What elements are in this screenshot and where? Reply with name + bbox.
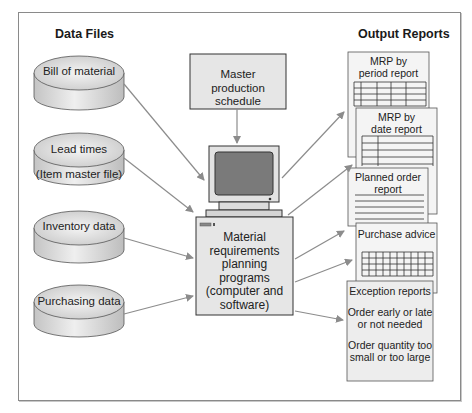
mrp-programs-label: Material requirements planning programs … [196,231,293,312]
report-period-label: MRP by period report [348,55,429,79]
report-period-line1: MRP by [348,55,429,67]
arrow-leadtimes-to-computer [124,158,193,212]
heading-output-reports: Output Reports [358,27,450,41]
report-exception-item2-line1: Order quantity too [347,339,433,351]
report-exception-item1-line2: or not needed [347,318,433,330]
master-schedule-line1: Master [190,68,286,82]
mrp-line6: software) [196,299,293,313]
arrow-purchasing-to-mrp [124,296,193,314]
report-planned-label: Planned order report [348,171,428,195]
disk-slot-icon [200,223,211,226]
disk-light-icon [213,223,215,226]
mrp-line1: Material [196,231,293,245]
report-purchase-label: Purchase advice [356,228,437,241]
arrow-mrp-to-planned [295,231,344,259]
mrp-line2: requirements [196,245,293,259]
arrow-inventory-to-mrp [124,238,193,258]
master-schedule-line2: production schedule [190,82,286,109]
heading-data-files: Data Files [55,27,114,41]
data-file-bom-label: Bill of material [34,65,124,78]
report-planned-line2: report [348,183,428,195]
arrow-computer-to-date [288,165,352,215]
data-file-purchasing-label: Purchasing data [34,295,124,308]
arrow-mrp-to-purchase [295,260,352,282]
mrp-line4: programs [196,272,293,286]
data-file-lead-times-label: Lead times [34,143,124,156]
arrow-computer-to-period [282,112,344,178]
mrp-line5: (computer and [196,285,293,299]
computer-icon [206,146,282,217]
data-file-inventory-label: Inventory data [34,220,124,233]
report-exception-item2-line2: small or too large [347,351,433,363]
report-planned-line1: Planned order [348,171,428,183]
report-date-label: MRP by date report [356,111,437,135]
report-period-line2: period report [348,67,429,79]
data-file-lead-times-sublabel: (Item master file) [34,168,124,181]
report-date-line1: MRP by [356,111,437,123]
master-schedule-label: Master production schedule [190,68,286,109]
report-exception-title: Exception reports [347,285,433,297]
report-exception-label: Exception reports Order early or late or… [347,285,433,363]
cylinder-inventory [34,211,124,263]
arrow-mrp-to-exception [295,311,343,320]
mrp-diagram: Data Files Output Reports Bill of materi… [0,0,472,413]
mrp-line3: planning [196,258,293,272]
report-exception-item1-line1: Order early or late [347,306,433,318]
report-date-line2: date report [356,123,437,135]
cylinder-purchasing [34,285,124,337]
